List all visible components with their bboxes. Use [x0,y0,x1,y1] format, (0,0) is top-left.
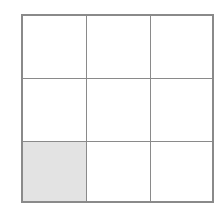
grid-cell [23,79,87,142]
grid-cell [23,16,87,79]
grid-cell [151,142,212,201]
grid-cell [87,79,151,142]
grid-cell [87,16,151,79]
grid-cell [151,16,212,79]
grid-cell [87,142,151,201]
grid-cell [151,79,212,142]
grid-3x3 [21,14,214,203]
grid-cell-filled [23,142,87,201]
